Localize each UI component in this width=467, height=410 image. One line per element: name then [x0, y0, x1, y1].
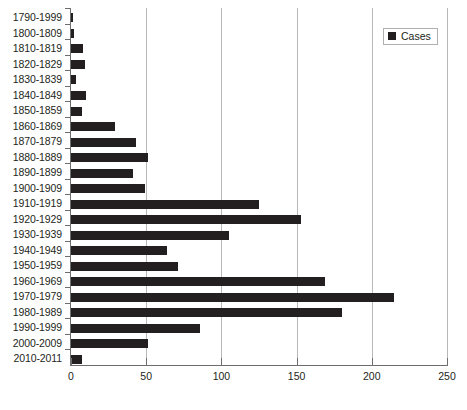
bar-1870-1879 [71, 138, 136, 147]
y-tick-1820-1829 [65, 55, 71, 56]
bar-1900-1909 [71, 184, 145, 193]
legend-label-cases: Cases [401, 31, 431, 42]
y-tick-1880-1889 [65, 148, 71, 149]
bar-1890-1899 [71, 169, 133, 178]
bar-1950-1959 [71, 262, 178, 271]
x-axis-label-250: 250 [438, 370, 456, 382]
bar-row [71, 349, 447, 369]
legend-swatch-cases-icon [388, 32, 396, 40]
bar-1860-1869 [71, 122, 115, 131]
y-tick-1830-1839 [65, 70, 71, 71]
bar-2000-2009 [71, 339, 148, 348]
x-tick-200 [372, 358, 373, 366]
gridline-250 [447, 8, 448, 365]
bar-1960-1969 [71, 277, 325, 286]
y-tick-1960-1969 [65, 272, 71, 273]
y-tick-1870-1879 [65, 132, 71, 133]
y-tick-2000-2009 [65, 334, 71, 335]
bar-1840-1849 [71, 91, 86, 100]
y-tick-1920-1929 [65, 210, 71, 211]
x-axis-label-100: 100 [213, 370, 231, 382]
y-tick-1840-1849 [65, 86, 71, 87]
caption-clipped-strip [0, 400, 467, 410]
bar-chart-figure: 1790-19991800-18091810-18191820-18291830… [0, 0, 467, 410]
y-axis-category-labels: 1790-19991800-18091810-18191820-18291830… [0, 8, 66, 365]
y-tick-1900-1909 [65, 179, 71, 180]
x-tick-0 [71, 358, 72, 366]
x-tick-50 [146, 358, 147, 366]
y-tick-1790-1999 [65, 8, 71, 9]
bar-1790-1999 [71, 13, 73, 22]
x-axis-label-150: 150 [288, 370, 306, 382]
x-axis-label-0: 0 [68, 370, 74, 382]
bar-1810-1819 [71, 44, 83, 53]
x-axis-label-200: 200 [363, 370, 381, 382]
y-tick-1970-1979 [65, 287, 71, 288]
y-tick-1910-1919 [65, 194, 71, 195]
bar-1880-1889 [71, 153, 148, 162]
bar-2010-2011 [71, 355, 82, 364]
y-tick-1890-1899 [65, 163, 71, 164]
x-tick-100 [221, 358, 222, 366]
y-tick-1850-1859 [65, 101, 71, 102]
y-axis-label-2010-2011: 2010-2011 [13, 349, 62, 369]
bar-1920-1929 [71, 215, 301, 224]
y-tick-1860-1869 [65, 117, 71, 118]
y-tick-1930-1939 [65, 225, 71, 226]
x-tick-150 [297, 358, 298, 366]
bars-layer [71, 8, 447, 365]
y-tick-1810-1819 [65, 39, 71, 40]
x-axis-label-50: 50 [140, 370, 152, 382]
chart-legend: Cases [383, 28, 438, 45]
bar-1980-1989 [71, 308, 342, 317]
bar-1830-1839 [71, 75, 76, 84]
y-tick-2010-2011 [65, 349, 71, 350]
bar-1800-1809 [71, 29, 74, 38]
y-tick-1980-1989 [65, 303, 71, 304]
y-tick-1940-1949 [65, 241, 71, 242]
bar-1850-1859 [71, 107, 82, 116]
y-tick-1800-1809 [65, 24, 71, 25]
bar-1970-1979 [71, 293, 394, 302]
bar-1990-1999 [71, 324, 200, 333]
x-tick-250 [447, 358, 448, 366]
bar-1930-1939 [71, 231, 229, 240]
plot-area [71, 8, 447, 365]
bar-1940-1949 [71, 246, 167, 255]
bar-1910-1919 [71, 200, 259, 209]
y-tick-1950-1959 [65, 256, 71, 257]
bar-1820-1829 [71, 60, 85, 69]
y-tick-1990-1999 [65, 318, 71, 319]
